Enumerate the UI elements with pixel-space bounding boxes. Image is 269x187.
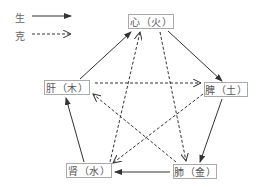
node-lung-metal: 肺（金） [173, 164, 217, 179]
node-kidney-water: 肾（水） [66, 163, 112, 178]
arrow-lung-to-liver [93, 94, 176, 162]
arrow-heart-to-lung [160, 32, 186, 161]
arrow-spleen-to-kidney [113, 94, 203, 163]
node-heart-fire: 心（火） [128, 14, 174, 29]
arrow-heart-to-spleen [168, 31, 222, 81]
arrow-kidney-to-liver [66, 98, 84, 162]
arrow-kidney-to-heart [110, 32, 140, 162]
node-spleen-earth: 脾（土） [204, 82, 248, 97]
arrow-spleen-to-lung [200, 99, 222, 162]
node-liver-wood: 肝（木） [44, 80, 90, 95]
arrow-liver-to-heart [80, 32, 131, 79]
